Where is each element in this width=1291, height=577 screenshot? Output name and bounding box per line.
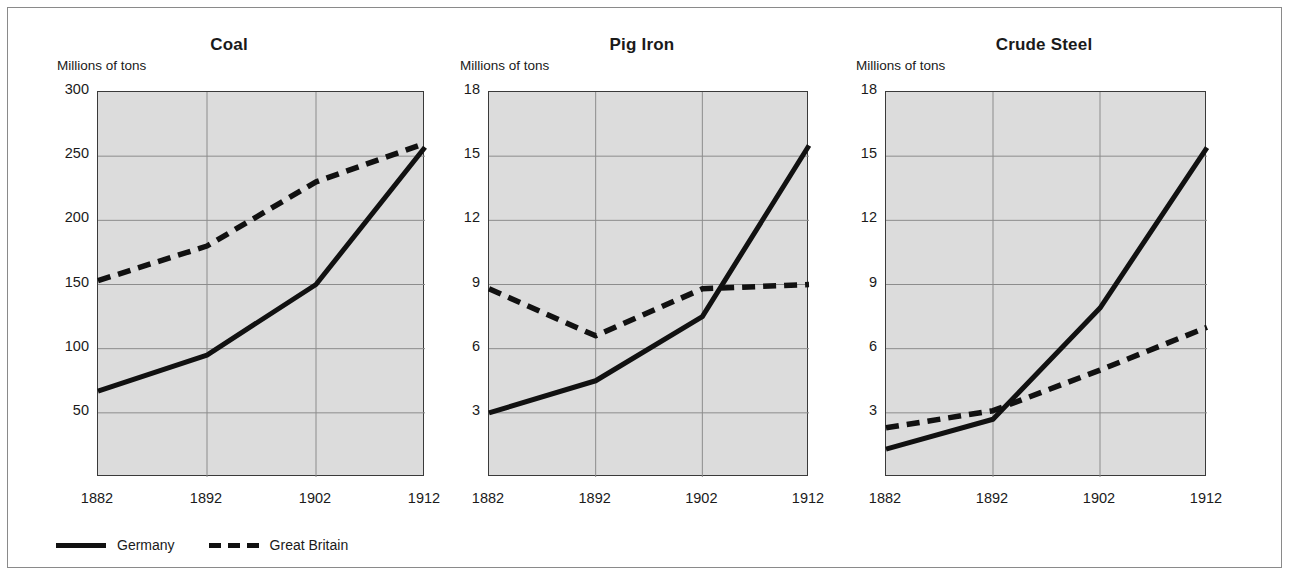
y-tick-label: 3	[432, 402, 480, 418]
y-tick-label: 12	[829, 209, 877, 225]
x-tick-label: 1902	[661, 490, 741, 506]
legend-swatch-dashed-line-icon	[209, 543, 259, 548]
chart-panel-pig-iron: Pig Iron Millions of tons 36912151818821…	[446, 8, 838, 518]
y-tick-label: 300	[41, 81, 89, 97]
y-axis-unit-label-coal: Millions of tons	[57, 58, 146, 73]
y-tick-label: 250	[41, 145, 89, 161]
y-tick-label: 12	[432, 209, 480, 225]
y-tick-label: 6	[432, 338, 480, 354]
figure-frame: Coal Millions of tons 501001502002503001…	[7, 7, 1282, 568]
x-tick-label: 1892	[166, 490, 246, 506]
plot-area-pig-iron	[488, 91, 808, 476]
y-tick-label: 18	[432, 81, 480, 97]
legend: GermanyGreat Britain	[56, 533, 382, 557]
x-tick-label: 1912	[1166, 490, 1246, 506]
legend-entry: Germany	[56, 537, 175, 553]
plot-lines-crude-steel	[886, 92, 1207, 477]
chart-panel-coal: Coal Millions of tons 501001502002503001…	[19, 8, 439, 518]
chart-title-pig-iron: Pig Iron	[446, 35, 838, 55]
y-tick-label: 150	[41, 274, 89, 290]
plot-area-coal	[97, 91, 424, 476]
chart-panel-crude-steel: Crude Steel Millions of tons 36912151818…	[844, 8, 1244, 518]
y-axis-unit-label-crude-steel: Millions of tons	[856, 58, 945, 73]
legend-label: Great Britain	[270, 537, 349, 553]
plot-area-crude-steel	[885, 91, 1206, 476]
y-tick-label: 9	[829, 274, 877, 290]
chart-title-coal: Coal	[19, 35, 439, 55]
chart-title-crude-steel: Crude Steel	[844, 35, 1244, 55]
y-axis-unit-label-pig-iron: Millions of tons	[460, 58, 549, 73]
y-tick-label: 6	[829, 338, 877, 354]
x-tick-label: 1912	[768, 490, 848, 506]
x-tick-label: 1902	[1059, 490, 1139, 506]
plot-lines-coal	[98, 92, 425, 477]
x-tick-label: 1882	[448, 490, 528, 506]
y-tick-label: 50	[41, 402, 89, 418]
y-tick-label: 18	[829, 81, 877, 97]
y-tick-label: 200	[41, 209, 89, 225]
y-tick-label: 9	[432, 274, 480, 290]
legend-label: Germany	[117, 537, 175, 553]
x-tick-label: 1892	[952, 490, 1032, 506]
x-tick-label: 1882	[57, 490, 137, 506]
x-tick-label: 1902	[275, 490, 355, 506]
y-tick-label: 100	[41, 338, 89, 354]
x-tick-label: 1892	[555, 490, 635, 506]
y-tick-label: 3	[829, 402, 877, 418]
y-tick-label: 15	[432, 145, 480, 161]
y-tick-label: 15	[829, 145, 877, 161]
legend-entry: Great Britain	[209, 537, 349, 553]
legend-swatch-solid-line-icon	[56, 543, 106, 548]
x-tick-label: 1882	[845, 490, 925, 506]
plot-lines-pig-iron	[489, 92, 809, 477]
